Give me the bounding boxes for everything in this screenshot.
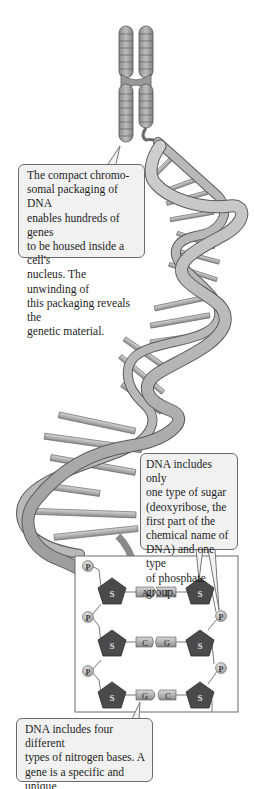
svg-text:P: P [219,665,224,674]
phosphate-icon: P [83,561,94,572]
dna-illustration: S S S S S S P P [0,0,254,789]
base-label: G [142,692,148,701]
nitrogen-bases-callout: DNA includes four different types of nit… [16,718,153,782]
base-label: G [164,639,170,648]
base-label: C [142,639,147,648]
svg-text:P: P [86,563,91,572]
phosphate-icon: P [83,666,94,677]
svg-text:S: S [197,589,202,599]
chromosome-callout: The compact chromo- somal packaging of D… [18,164,145,258]
sugar-phosphate-callout: DNA includes only one type of sugar (deo… [140,453,238,550]
svg-text:P: P [86,668,91,677]
chromosome-icon [108,26,160,164]
svg-text:S: S [197,641,202,651]
svg-text:S: S [109,589,114,599]
phosphate-icon: P [216,611,227,622]
svg-text:S: S [109,641,114,651]
base-label: C [165,692,170,701]
svg-text:P: P [86,614,91,623]
phosphate-icon: P [83,612,94,623]
svg-text:P: P [219,613,224,622]
svg-text:S: S [197,693,202,703]
phosphate-icon: P [216,663,227,674]
svg-text:S: S [109,693,114,703]
